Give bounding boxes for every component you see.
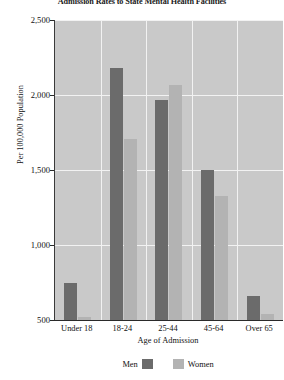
bar-men-25-44 <box>155 100 168 321</box>
legend-entry-men: Men <box>122 359 152 369</box>
x-axis-tick-label: Over 65 <box>236 323 282 335</box>
x-axis-tick-labels: Under 1818-2425-4445-64Over 65 <box>54 323 282 337</box>
y-axis-tick-label: 500 <box>10 315 50 325</box>
bar-women-18-24 <box>124 139 137 321</box>
x-axis-tick-label: Under 18 <box>54 323 100 335</box>
legend-entry-women: Women <box>173 359 214 369</box>
x-axis-tick-label: 25-44 <box>145 323 191 335</box>
bar-men-18-24 <box>110 68 123 320</box>
plot-area <box>54 20 283 320</box>
y-axis-tick-label: 1,000 <box>10 240 50 250</box>
legend-label-women: Women <box>188 360 214 369</box>
bar-women-45-64 <box>215 196 228 321</box>
x-axis-line <box>54 320 283 321</box>
y-axis-tick-mark <box>50 245 54 246</box>
chart-legend: Men Women <box>54 356 282 372</box>
x-axis-tick-label: 45-64 <box>191 323 237 335</box>
bar-group <box>55 20 101 320</box>
bar-men-under-18 <box>64 283 77 321</box>
legend-swatch-men-icon <box>142 359 153 369</box>
bar-men-over-65 <box>247 296 260 320</box>
y-axis-tick-mark <box>50 320 54 321</box>
y-axis-tick-label: 2,500 <box>10 15 50 25</box>
y-axis-tick-labels: 5001,0001,5002,0002,500 <box>5 0 50 380</box>
x-axis-title: Age of Admission <box>54 336 282 345</box>
legend-swatch-women-icon <box>173 359 184 369</box>
y-axis-tick-label: 2,000 <box>10 90 50 100</box>
y-axis-tick-mark <box>50 20 54 21</box>
bar-group <box>101 20 147 320</box>
y-axis-tick-mark <box>50 95 54 96</box>
bar-group <box>146 20 192 320</box>
y-axis-tick-label: 1,500 <box>10 165 50 175</box>
chart-figure: Admission Rates to State Mental Health F… <box>0 0 284 380</box>
x-axis-tick-label: 18-24 <box>100 323 146 335</box>
y-axis-tick-mark <box>50 170 54 171</box>
legend-label-men: Men <box>122 360 137 369</box>
bar-group <box>237 20 283 320</box>
bars-layer <box>55 20 283 320</box>
bar-women-25-44 <box>169 85 182 321</box>
bar-men-45-64 <box>201 170 214 320</box>
bar-group <box>192 20 238 320</box>
